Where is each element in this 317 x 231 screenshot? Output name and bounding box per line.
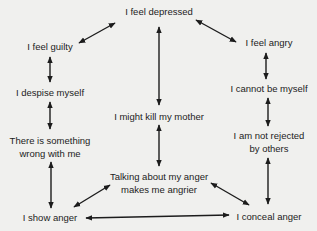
double-arrow-icon [74, 185, 110, 207]
double-arrow-icon [211, 183, 249, 205]
double-arrow-icon [86, 215, 229, 218]
node-not-rejected-line2: by others [249, 143, 288, 155]
node-i-show-anger: I show anger [23, 212, 77, 224]
double-arrow-icon [196, 20, 236, 42]
node-i-feel-angry: I feel angry [246, 37, 293, 49]
cognitive-cycle-diagram: I feel depressed I feel guilty I feel an… [0, 0, 317, 231]
node-talking-line2: makes me angrier [121, 184, 197, 196]
node-something-wrong-line1: There is something [10, 135, 91, 147]
node-i-despise-myself: I despise myself [16, 87, 84, 99]
node-i-cannot-be-myself: I cannot be myself [230, 83, 307, 95]
node-i-might-kill-my-mother: I might kill my mother [114, 111, 204, 123]
node-not-rejected-line1: I am not rejected [234, 130, 305, 142]
node-i-conceal-anger: I conceal anger [237, 211, 302, 223]
node-something-wrong-line2: wrong with me [19, 148, 80, 160]
node-i-feel-depressed: I feel depressed [125, 6, 193, 18]
double-arrow-icon [79, 23, 115, 43]
node-talking-line1: Talking about my anger [110, 171, 208, 183]
node-i-feel-guilty: I feel guilty [27, 41, 72, 53]
